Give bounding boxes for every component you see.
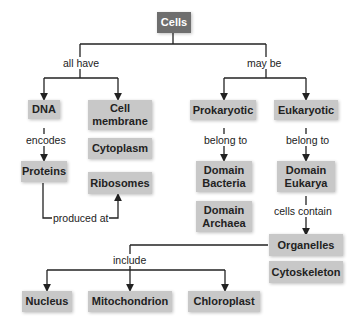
node-proteins-label: Proteins — [22, 165, 66, 178]
node-dna-label: DNA — [32, 103, 56, 116]
label-cells-contain: cells contain — [273, 205, 333, 217]
node-domain-bacteria-label: Domain Bacteria — [196, 164, 252, 190]
node-nucleus: Nucleus — [22, 291, 72, 312]
node-cytoskeleton-label: Cytoskeleton — [271, 266, 340, 279]
node-cells-label: Cells — [161, 16, 187, 29]
node-cytoplasm: Cytoplasm — [88, 138, 152, 159]
node-ribosomes-label: Ribosomes — [90, 177, 149, 190]
node-nucleus-label: Nucleus — [26, 295, 69, 308]
node-cytoplasm-label: Cytoplasm — [92, 142, 148, 155]
node-prokaryotic-label: Prokaryotic — [193, 104, 254, 117]
node-organelles-label: Organelles — [278, 239, 335, 252]
node-domain-bacteria: Domain Bacteria — [196, 161, 252, 192]
node-organelles: Organelles — [269, 234, 343, 256]
node-ribosomes: Ribosomes — [88, 172, 152, 194]
node-domain-archaea-label: Domain Archaea — [196, 204, 252, 230]
node-domain-eukarya-label: Domain Eukarya — [277, 164, 335, 190]
label-may-be: may be — [246, 57, 282, 69]
node-prokaryotic: Prokaryotic — [190, 100, 256, 120]
label-all-have: all have — [62, 57, 100, 69]
node-mitochondrion: Mitochondrion — [88, 291, 172, 312]
node-mitochondrion-label: Mitochondrion — [92, 295, 168, 308]
node-cell-membrane-label: Cell membrane — [88, 102, 152, 128]
node-eukaryotic-label: Eukaryotic — [278, 104, 334, 117]
label-encodes: encodes — [25, 134, 67, 146]
node-cytoskeleton: Cytoskeleton — [269, 261, 343, 283]
node-cell-membrane: Cell membrane — [88, 100, 152, 130]
label-belong-to-prok: belong to — [203, 134, 248, 146]
label-include: include — [112, 254, 147, 266]
label-belong-to-euk: belong to — [285, 134, 330, 146]
node-cells: Cells — [157, 12, 191, 33]
node-chloroplast: Chloroplast — [188, 291, 260, 312]
node-chloroplast-label: Chloroplast — [193, 295, 254, 308]
node-dna: DNA — [28, 100, 60, 119]
node-eukaryotic: Eukaryotic — [274, 100, 338, 120]
label-produced-at: produced at — [52, 212, 109, 224]
node-domain-archaea: Domain Archaea — [196, 201, 252, 232]
node-proteins: Proteins — [21, 161, 67, 182]
node-domain-eukarya: Domain Eukarya — [277, 161, 335, 192]
